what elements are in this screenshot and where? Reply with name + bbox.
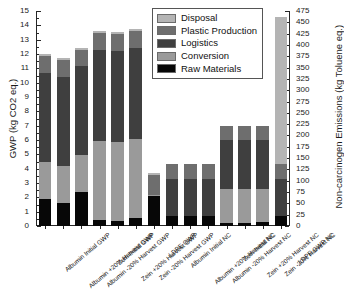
legend-item-label: Conversion (181, 51, 229, 61)
bar-segment-disposal (275, 17, 288, 165)
y-tick-label-left: 0 (0, 222, 29, 230)
bar-segment-plastic-production (166, 164, 179, 179)
bar-segment-logistics (275, 179, 288, 216)
bar-segment-plastic-production (57, 60, 70, 76)
y-tick-label-right: 325 (296, 75, 309, 83)
bar (129, 11, 142, 226)
legend-item-raw-materials[interactable]: Raw Materials (157, 62, 257, 75)
y-tick-label-left: 15 (0, 7, 29, 15)
y-tick-label-left: 11 (0, 64, 29, 72)
bar-segment-conversion (75, 155, 88, 192)
bar (75, 11, 88, 226)
bar-segment-raw-materials (39, 199, 52, 226)
legend-swatch-icon (157, 39, 176, 48)
legend-item-label: Logistics (181, 38, 218, 48)
bar-segment-plastic-production (184, 164, 197, 179)
bar-segment-raw-materials (275, 216, 288, 226)
bar-segment-conversion (256, 189, 269, 223)
legend-item-logistics[interactable]: Logistics (157, 37, 257, 50)
x-tick (245, 226, 246, 229)
bar-segment-logistics (129, 48, 142, 139)
bar-segment-disposal (148, 173, 161, 175)
y-tick-label-right: 25 (296, 211, 305, 219)
y-tick-label-right: 0 (296, 222, 300, 230)
bar-segment-plastic-production (111, 34, 124, 51)
y-tick-label-right: 250 (296, 109, 309, 117)
y-tick-left (37, 226, 41, 227)
x-tick (263, 226, 264, 229)
x-tick (208, 226, 209, 229)
bar-segment-disposal (93, 31, 106, 33)
y-tick-label-right: 300 (296, 86, 309, 94)
bar-segment-conversion (238, 189, 251, 224)
y-tick-label-left: 2 (0, 193, 29, 201)
bar-segment-logistics (39, 73, 52, 162)
x-tick (154, 226, 155, 229)
y-tick-label-left: 1 (0, 208, 29, 216)
y-tick-label-left: 6 (0, 136, 29, 144)
y-tick-label-left: 4 (0, 165, 29, 173)
y-tick-label-right: 425 (296, 30, 309, 38)
bar-segment-plastic-production (256, 126, 269, 140)
bar-segment-raw-materials (166, 216, 179, 226)
bar-segment-plastic-production (39, 56, 52, 72)
bar-segment-logistics (202, 179, 215, 216)
bar (93, 11, 106, 226)
y-tick-label-left: 13 (0, 36, 29, 44)
bar-segment-logistics (166, 179, 179, 216)
bar (111, 11, 124, 226)
bar-segment-logistics (111, 51, 124, 141)
x-tick (63, 226, 64, 229)
bar-segment-disposal (129, 29, 142, 31)
bar-segment-plastic-production (148, 175, 161, 195)
y-tick-label-left: 12 (0, 50, 29, 58)
legend-item-conversion[interactable]: Conversion (157, 50, 257, 63)
y-tick-label-right: 50 (296, 199, 305, 207)
bar-segment-plastic-production (220, 126, 233, 140)
legend-item-plastic-production[interactable]: Plastic Production (157, 25, 257, 38)
x-tick (118, 226, 119, 229)
bar-segment-conversion (111, 142, 124, 221)
bar-segment-logistics (57, 77, 70, 166)
y-axis-title-right: Non-carcinogen Emissions (kg Toluene eq.… (333, 28, 344, 208)
x-tick (227, 226, 228, 229)
bar-segment-plastic-production (93, 33, 106, 50)
x-tick (281, 226, 282, 229)
y-tick-label-right: 375 (296, 52, 309, 60)
y-tick-label-left: 14 (0, 21, 29, 29)
y-tick-label-left: 5 (0, 150, 29, 158)
bar-segment-conversion (93, 141, 106, 220)
bar-segment-raw-materials (57, 203, 70, 226)
legend-item-label: Plastic Production (181, 26, 257, 36)
y-tick-label-right: 400 (296, 41, 309, 49)
x-tick (100, 226, 101, 229)
legend-item-label: Raw Materials (181, 64, 241, 74)
bar (275, 11, 288, 226)
y-tick-label-right: 275 (296, 98, 309, 106)
legend-item-label: Disposal (181, 13, 217, 23)
bar-segment-disposal (75, 48, 88, 50)
bar-segment-logistics (93, 50, 106, 140)
bar (57, 11, 70, 226)
y-tick-label-right: 450 (296, 18, 309, 26)
legend-swatch-icon (157, 14, 176, 23)
bar-segment-raw-materials (202, 216, 215, 226)
bar-segment-conversion (57, 166, 70, 203)
bar-segment-plastic-production (275, 164, 288, 178)
bar-segment-plastic-production (129, 31, 142, 48)
y-tick-right (285, 226, 289, 227)
y-tick-label-left: 7 (0, 122, 29, 130)
bar-segment-logistics (220, 140, 233, 189)
y-tick-label-right: 200 (296, 131, 309, 139)
legend-swatch-icon (157, 52, 176, 61)
y-tick-label-right: 150 (296, 154, 309, 162)
y-tick-label-right: 175 (296, 143, 309, 151)
bar-segment-raw-materials (129, 218, 142, 226)
bar-segment-conversion (220, 189, 233, 223)
legend-item-disposal[interactable]: Disposal (157, 12, 257, 25)
x-tick (190, 226, 191, 229)
legend-swatch-icon (157, 64, 176, 73)
bar-segment-disposal (111, 32, 124, 34)
y-tick-label-right: 125 (296, 165, 309, 173)
